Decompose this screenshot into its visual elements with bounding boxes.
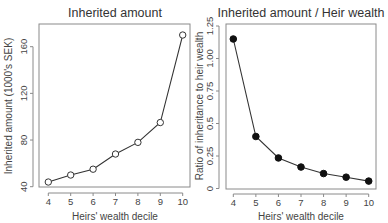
x-tick-label: 7 — [113, 196, 118, 207]
data-series — [45, 32, 186, 185]
data-point — [112, 151, 118, 157]
x-tick-label: 7 — [298, 197, 303, 208]
x-axis: 45678910 — [46, 193, 188, 207]
chart-title: Inherited amount — [68, 6, 162, 20]
y-tick-label: 120 — [18, 85, 29, 101]
y-tick-label: 1.25 — [204, 17, 215, 36]
data-point — [343, 174, 350, 181]
x-tick-label: 4 — [46, 196, 51, 207]
data-point — [157, 119, 163, 125]
x-tick-label: 6 — [276, 197, 281, 208]
chart-canvas: Inherited amount 45678910 4080120160 Hei… — [0, 0, 388, 223]
x-axis-label: Heirs' wealth decile — [258, 211, 344, 222]
x-tick-label: 5 — [68, 196, 73, 207]
x-axis: 45678910 — [231, 194, 374, 208]
y-tick-label: 0.25 — [204, 147, 215, 166]
y-tick-label: 1.00 — [204, 49, 215, 68]
y-tick-label: 160 — [18, 39, 29, 55]
data-point — [180, 32, 186, 38]
y-axis: 4080120160 — [18, 39, 33, 192]
data-point — [253, 133, 260, 140]
series-line — [233, 39, 368, 181]
data-point — [298, 164, 305, 171]
chart-title: Inherited amount / Heir wealth — [218, 6, 385, 20]
x-tick-label: 9 — [343, 197, 348, 208]
x-tick-label: 5 — [253, 197, 258, 208]
data-point — [230, 36, 237, 43]
data-point — [45, 179, 51, 185]
panel-inherited-amount: Inherited amount 45678910 4080120160 Hei… — [3, 6, 190, 222]
plot-frame — [39, 24, 190, 187]
data-point — [275, 155, 282, 162]
y-axis: 00.250.50.751.001.25 — [204, 17, 219, 191]
data-point — [68, 172, 74, 178]
panel-inheritance-ratio: Inherited amount / Heir wealth 45678910 … — [194, 6, 384, 222]
x-axis-label: Heirs' wealth decile — [72, 211, 158, 222]
data-point — [320, 170, 327, 177]
data-point — [90, 166, 96, 172]
y-tick-label: 40 — [18, 181, 29, 192]
data-point — [365, 178, 372, 185]
x-tick-label: 6 — [90, 196, 95, 207]
data-series — [230, 36, 372, 185]
x-tick-label: 10 — [363, 197, 374, 208]
y-tick-label: 0.75 — [204, 82, 215, 101]
x-tick-label: 9 — [158, 196, 163, 207]
y-tick-label: 80 — [18, 135, 29, 146]
y-tick-label: 0.5 — [204, 117, 215, 130]
y-tick-label: 0 — [204, 186, 215, 191]
y-axis-label: Ratio of inheritance to heir wealth — [194, 32, 205, 180]
x-tick-label: 10 — [177, 196, 188, 207]
y-axis-label: Inherited amount (1000's SEK) — [3, 38, 14, 174]
x-tick-label: 8 — [321, 197, 326, 208]
x-tick-label: 8 — [135, 196, 140, 207]
data-point — [135, 139, 141, 145]
x-tick-label: 4 — [231, 197, 236, 208]
figure: Inherited amount 45678910 4080120160 Hei… — [0, 0, 388, 223]
series-line — [48, 35, 182, 182]
